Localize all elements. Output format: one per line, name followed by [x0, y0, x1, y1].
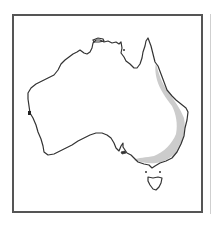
- tasmania: [148, 177, 162, 190]
- king-island: [145, 171, 147, 173]
- mainland-coastline: [28, 38, 188, 168]
- shark-bay-mark: [28, 111, 31, 115]
- flinders-island: [159, 171, 161, 173]
- kangaroo-island: [121, 151, 126, 154]
- groote-island: [123, 49, 125, 51]
- range-shading: [134, 63, 185, 163]
- australia-map: [0, 0, 213, 226]
